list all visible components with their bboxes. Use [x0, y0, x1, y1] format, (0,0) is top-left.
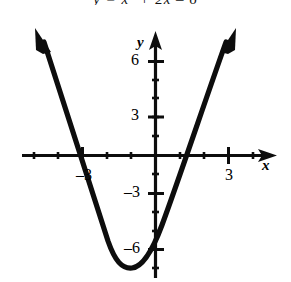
parabola-left-arrowhead [35, 28, 51, 54]
y-tick-label-6: 6 [126, 51, 144, 69]
y-tick-label-3: 3 [126, 106, 144, 124]
x-axis-label: x [262, 157, 270, 174]
coordinate-plane-svg [0, 0, 291, 282]
y-axis-label: y [137, 34, 144, 51]
equation-caption: y = x² + 2x – 6 [0, 0, 291, 5]
x-tick-label-3: 3 [219, 166, 239, 184]
parabola-graph-figure: y = x² + 2x – 6 [0, 0, 291, 282]
parabola-right-arrowhead [220, 28, 236, 54]
y-tick-label-minus-3: –3 [120, 183, 144, 201]
y-tick-label-minus-6: –6 [120, 239, 144, 257]
x-tick-label-minus-3: –3 [71, 166, 97, 184]
